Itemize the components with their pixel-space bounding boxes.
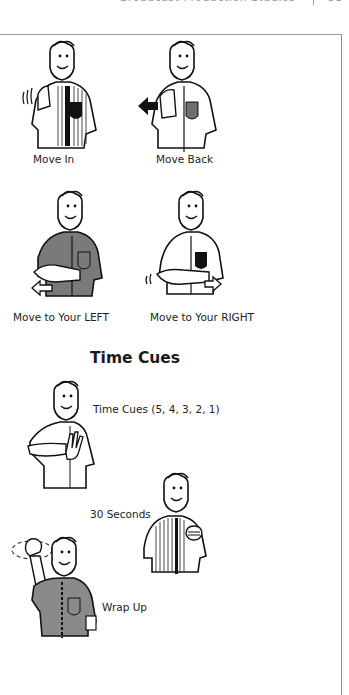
man-counting-fingers-icon xyxy=(26,380,106,490)
figure-move-left xyxy=(30,190,110,305)
man-fist-chest-icon xyxy=(142,472,212,577)
running-header: Broadcast Production Studios 53 xyxy=(120,0,349,5)
figure-time-cues xyxy=(26,380,106,490)
header-divider xyxy=(313,0,314,5)
figure-move-back xyxy=(136,40,216,155)
man-white-shirt-icon xyxy=(136,40,216,155)
figure-wrap-up xyxy=(10,536,100,640)
man-white-shirt-icon xyxy=(143,190,223,305)
caption-time-cues: Time Cues (5, 4, 3, 2, 1) xyxy=(93,403,220,415)
caption-move-right: Move to Your RIGHT xyxy=(150,311,254,323)
caption-move-back: Move Back xyxy=(156,153,213,165)
section-heading-time-cues: Time Cues xyxy=(90,349,180,367)
figure-move-right xyxy=(143,190,223,305)
figure-30-seconds xyxy=(142,472,212,577)
man-striped-shirt-icon xyxy=(22,40,102,150)
caption-move-left: Move to Your LEFT xyxy=(13,311,109,323)
figure-move-in xyxy=(22,40,102,150)
caption-wrap-up: Wrap Up xyxy=(102,601,147,613)
man-gray-shirt-icon xyxy=(30,190,110,305)
running-header-title: Broadcast Production Studios xyxy=(120,0,295,4)
caption-move-in: Move In xyxy=(33,153,74,165)
man-fist-circle-icon xyxy=(10,536,100,640)
page-number: 53 xyxy=(328,0,343,4)
